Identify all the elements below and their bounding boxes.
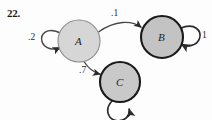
self-loop-c <box>108 101 130 121</box>
edge-weight-a-to-c: .7 <box>79 66 86 76</box>
edge-a-to-c <box>84 62 101 75</box>
node-label-b: B <box>158 32 165 43</box>
edge-weight-self-loop-b: 1 <box>202 31 207 41</box>
edge-weight-a-to-b: .1 <box>111 9 118 19</box>
edge-a-to-b <box>99 22 142 32</box>
edge-weight-self-loop-a: .2 <box>28 33 35 43</box>
node-label-a: A <box>75 36 82 47</box>
state-diagram-graphic <box>0 0 212 120</box>
figure-container: 22. A B C .2 .1 .7 1 <box>0 0 212 120</box>
node-label-c: C <box>116 77 123 88</box>
item-number: 22. <box>7 8 20 19</box>
